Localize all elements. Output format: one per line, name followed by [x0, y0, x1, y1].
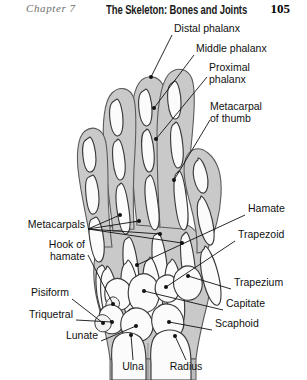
label-hook-of-hamate: Hook of hamate [0, 239, 85, 262]
label-triquetral: Triquetral [0, 309, 73, 321]
leader-dot-metacarpal-4 [137, 219, 141, 223]
label-lunate: Lunate [0, 330, 98, 342]
label-metacarpals: Metacarpals [0, 219, 85, 231]
leader-dot-triquetral [110, 320, 114, 324]
label-capitate: Capitate [226, 298, 265, 310]
label-trapezium: Trapezium [234, 277, 283, 289]
running-head-title: The Skeleton: Bones and Joints [106, 2, 247, 16]
leader-dot-trapezoid [164, 285, 168, 289]
hand-skeleton-illustration: .st { fill:#c9c9c9; stroke:#5a5a5a; stro… [0, 19, 307, 380]
label-scaphoid: Scaphoid [215, 318, 259, 330]
leader-dot-capitate [142, 289, 146, 293]
leader-dot-metacarpal-thumb [172, 178, 176, 182]
hand-skeleton-figure: .st { fill:#c9c9c9; stroke:#5a5a5a; stro… [0, 19, 307, 380]
leader-dot-proximal-phalanx [154, 137, 158, 141]
running-head: Chapter 7 The Skeleton: Bones and Joints… [0, 0, 307, 19]
label-hamate: Hamate [248, 203, 285, 215]
leader-dot-scaphoid [167, 320, 171, 324]
chapter-label: Chapter 7 [26, 2, 76, 14]
leader-dot-hamate [135, 263, 139, 267]
textbook-page: Chapter 7 The Skeleton: Bones and Joints… [0, 0, 307, 380]
label-metacarpal-of-thumb: Metacarpal of thumb [210, 101, 262, 124]
leader-dot-ulna [129, 333, 133, 337]
label-proximal-phalanx: Proximal phalanx [209, 62, 250, 85]
label-middle-phalanx: Middle phalanx [196, 43, 267, 55]
page-number: 105 [271, 1, 291, 17]
leader-dot-middle-phalanx [152, 106, 156, 110]
trapezium-bone [173, 266, 202, 300]
label-distal-phalanx: Distal phalanx [174, 23, 240, 35]
leader-dot-hook-of-hamate [111, 302, 115, 306]
leader-dot-radius [173, 334, 177, 338]
label-ulna: Ulna [113, 361, 153, 373]
leader-dot-metacarpal-3 [158, 232, 162, 236]
leader-dot-trapezium [186, 274, 190, 278]
leader-dot-metacarpal-5 [118, 213, 122, 217]
ulna-bone [112, 333, 146, 380]
leader-dot-lunate [134, 324, 138, 328]
label-trapezoid: Trapezoid [238, 229, 284, 241]
leader-dot-distal-phalanx [149, 75, 153, 79]
label-pisiform: Pisiform [0, 287, 69, 299]
label-radius: Radius [163, 361, 209, 373]
